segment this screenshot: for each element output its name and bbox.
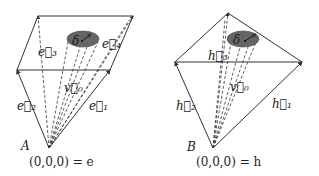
label-e1: e⃗₁ bbox=[89, 99, 108, 113]
origin-label-b: (0,0,0) = h bbox=[196, 155, 262, 169]
diagram-label-a: A bbox=[20, 139, 30, 153]
diagram-label-b: B bbox=[186, 140, 196, 154]
delta-ball-ellipse bbox=[227, 31, 259, 47]
label-e4: e⃗₄ bbox=[102, 37, 121, 51]
dash-ray bbox=[213, 20, 225, 148]
label-v0: v⃗₀ bbox=[230, 80, 249, 94]
center-point bbox=[81, 40, 83, 42]
diagram-a: δ e⃗₃ e⃗₄ v⃗₀ e⃗₂ e⃗₁ A (0,0,0) = e bbox=[17, 16, 133, 169]
radius-label: δ bbox=[233, 33, 240, 47]
figure-canvas: δ e⃗₃ e⃗₄ v⃗₀ e⃗₂ e⃗₁ A (0,0,0) = e δ h⃗… bbox=[0, 0, 319, 176]
label-h2: h⃗₂ bbox=[176, 99, 196, 113]
label-v0: v⃗₀ bbox=[64, 81, 83, 95]
label-h3: h⃗₃ bbox=[208, 49, 228, 63]
radius-label: δ bbox=[72, 34, 79, 48]
center-point bbox=[244, 40, 246, 42]
label-h1: h⃗₁ bbox=[272, 97, 292, 111]
origin-label-a: (0,0,0) = e bbox=[29, 155, 94, 169]
edge-e3 bbox=[38, 16, 49, 148]
label-e2: e⃗₂ bbox=[17, 99, 36, 113]
label-e3: e⃗₃ bbox=[38, 45, 57, 59]
diagram-b: δ h⃗₃ v⃗₀ h⃗₂ h⃗₁ B (0,0,0) = h bbox=[175, 13, 302, 169]
cone-ray bbox=[49, 47, 87, 148]
